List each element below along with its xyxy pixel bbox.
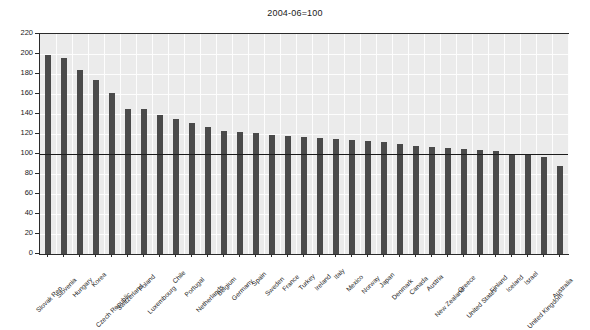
bar bbox=[125, 109, 131, 254]
x-tick-label: Poland bbox=[152, 259, 171, 278]
y-tick-label: 40 bbox=[25, 209, 33, 217]
y-tick-label: 180 bbox=[20, 69, 33, 77]
bar bbox=[253, 133, 259, 254]
x-tick-mark bbox=[255, 254, 256, 257]
x-tick-mark bbox=[351, 254, 352, 257]
x-tick-mark bbox=[319, 254, 320, 257]
plot-area bbox=[39, 33, 569, 255]
y-tick-label: 160 bbox=[20, 89, 33, 97]
x-tick-mark bbox=[495, 254, 496, 257]
x-tick-mark bbox=[511, 254, 512, 257]
x-tick-label: Portugal bbox=[201, 259, 223, 281]
bar bbox=[461, 149, 467, 254]
bar bbox=[109, 93, 115, 254]
x-tick-mark bbox=[447, 254, 448, 257]
x-tick-mark bbox=[335, 254, 336, 257]
bar bbox=[333, 139, 339, 254]
bar bbox=[365, 141, 371, 254]
bar bbox=[445, 148, 451, 254]
bar bbox=[477, 150, 483, 254]
x-tick-label-text: United Kingdom bbox=[526, 291, 564, 329]
y-tick-label: 140 bbox=[20, 109, 33, 117]
bar bbox=[557, 166, 563, 254]
x-tick-mark bbox=[431, 254, 432, 257]
x-tick-mark bbox=[175, 254, 176, 257]
y-tick-label: 120 bbox=[20, 129, 33, 137]
chart-title: 2004-06=100 bbox=[0, 8, 590, 18]
y-tick-label: 80 bbox=[25, 169, 33, 177]
x-tick-mark bbox=[207, 254, 208, 257]
x-tick-mark bbox=[47, 254, 48, 257]
x-tick-mark bbox=[383, 254, 384, 257]
x-tick-mark bbox=[159, 254, 160, 257]
x-tick-label-text: Luxembourg bbox=[146, 284, 177, 315]
x-tick-label: Greece bbox=[472, 259, 492, 279]
bars-layer bbox=[40, 34, 568, 254]
reference-line-100 bbox=[40, 154, 568, 155]
x-tick-mark bbox=[191, 254, 192, 257]
bar bbox=[317, 138, 323, 254]
x-tick-mark bbox=[463, 254, 464, 257]
bar bbox=[413, 146, 419, 254]
bar bbox=[349, 140, 355, 254]
y-tick-label: 220 bbox=[20, 29, 33, 37]
bar bbox=[157, 115, 163, 254]
bar bbox=[189, 123, 195, 254]
y-tick-label: 0 bbox=[29, 249, 33, 257]
bar bbox=[205, 127, 211, 254]
bar bbox=[61, 58, 67, 254]
bar bbox=[493, 151, 499, 254]
x-tick-mark bbox=[303, 254, 304, 257]
x-tick-mark bbox=[479, 254, 480, 257]
bar bbox=[525, 155, 531, 254]
gridline-vertical bbox=[568, 34, 569, 254]
x-tick-mark bbox=[79, 254, 80, 257]
bar bbox=[173, 119, 179, 254]
bar bbox=[397, 144, 403, 254]
bar bbox=[77, 70, 83, 254]
x-tick-mark bbox=[415, 254, 416, 257]
x-tick-label-text: Poland bbox=[137, 273, 156, 292]
x-tick-mark bbox=[399, 254, 400, 257]
bar bbox=[221, 131, 227, 254]
bar bbox=[269, 135, 275, 254]
x-tick-mark bbox=[271, 254, 272, 257]
bar bbox=[237, 132, 243, 254]
x-tick-mark bbox=[559, 254, 560, 257]
x-tick-mark bbox=[111, 254, 112, 257]
x-tick-mark bbox=[127, 254, 128, 257]
x-tick-label-text: Spain bbox=[250, 270, 267, 287]
y-tick-label: 60 bbox=[25, 189, 33, 197]
x-tick-mark bbox=[287, 254, 288, 257]
x-tick-mark bbox=[143, 254, 144, 257]
bar bbox=[93, 80, 99, 254]
bar bbox=[141, 109, 147, 254]
y-axis: 020406080100120140160180200220 bbox=[0, 33, 39, 254]
x-axis: Slovak Rep.SloveniaHungaryKoreaCzech Rep… bbox=[39, 254, 569, 311]
bar bbox=[381, 142, 387, 254]
x-tick-mark bbox=[239, 254, 240, 257]
x-tick-mark bbox=[367, 254, 368, 257]
bar bbox=[429, 147, 435, 254]
y-tick-label: 20 bbox=[25, 229, 33, 237]
x-tick-mark bbox=[223, 254, 224, 257]
y-tick-label: 200 bbox=[20, 49, 33, 57]
y-tick-label: 100 bbox=[20, 149, 33, 157]
bar bbox=[509, 154, 515, 254]
x-tick-mark bbox=[527, 254, 528, 257]
x-tick-mark bbox=[543, 254, 544, 257]
x-tick-mark bbox=[95, 254, 96, 257]
x-tick-mark bbox=[63, 254, 64, 257]
bar bbox=[541, 157, 547, 254]
